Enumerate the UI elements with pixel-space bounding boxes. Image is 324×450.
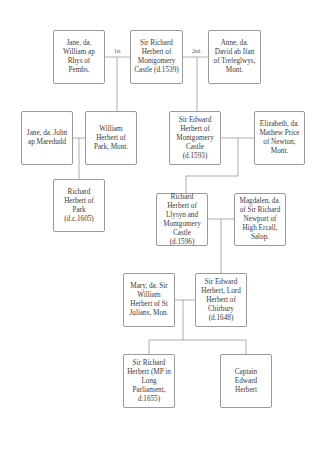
person-magdalen-newport: Magdalen, da. of Sir Richard Newport of … [234,193,286,246]
person-richard-1596: Richard Herbert of Llysyn and Montgomery… [156,193,208,246]
person-elizabeth-price: Elizabeth, da. Mathew Price of Newton, M… [254,111,305,165]
person-label: Richard Herbert of Park (d.c.1605) [57,188,101,224]
person-richard-1655: Sir Richard Herbert (MP in Long Parliame… [123,354,175,408]
person-richard-park: Richard Herbert of Park (d.c.1605) [53,179,105,232]
person-label: Sir Richard Herbert of Montgomery Castle… [134,39,179,75]
person-label: Sir Richard Herbert (MP in Long Parliame… [127,359,171,404]
person-label: Captain Edward Herbert [224,368,268,395]
person-label: Magdalen, da. of Sir Richard Newport of … [238,197,282,242]
person-label: Sir Edward Herbert of Montgomery Castle … [173,116,217,161]
person-edward-1593: Sir Edward Herbert of Montgomery Castle … [169,111,221,165]
person-label: Jane, da. William ap Rhys of Pembs. [57,39,101,75]
person-label: Richard Herbert of Llysyn and Montgomery… [160,193,204,247]
person-richard-1539: Sir Richard Herbert of Montgomery Castle… [130,30,183,84]
person-edward-1648: Sir Edward Herbert, Lord Herbert of Chir… [195,273,247,327]
person-mary-herbert: Mary, da. Sir William Herbert of St Juli… [123,273,175,327]
person-jane-maredudd: Jane, da. John ap Maredudd [21,111,73,165]
person-william-park: William Herbert of Park, Mont. [85,111,137,165]
person-jane-rhys: Jane, da. William ap Rhys of Pembs. [53,30,105,84]
person-label: Sir Edward Herbert, Lord Herbert of Chir… [199,278,243,323]
person-label: Anne, da. David ab Ifan of Trefeglwys, M… [212,39,257,75]
marriage-label-first: 1st [114,48,120,54]
person-label: Jane, da. John ap Maredudd [25,129,69,147]
person-label: Mary, da. Sir William Herbert of St Juli… [127,282,171,318]
person-label: William Herbert of Park, Mont. [89,125,133,152]
person-captain-edward: Captain Edward Herbert [220,354,272,408]
person-anne-ifan: Anne, da. David ab Ifan of Trefeglwys, M… [208,30,261,84]
marriage-label-second: 2nd [192,48,200,54]
person-label: Elizabeth, da. Mathew Price of Newton, M… [258,120,301,156]
